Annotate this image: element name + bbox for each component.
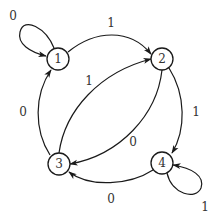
node-1-label: 1 [54,52,62,66]
edge-4-to-3 [69,170,153,183]
edge-3-to-2 [59,59,151,153]
node-2: 2 [151,48,173,70]
edge-label-1-1: 0 [9,9,17,23]
node-3-label: 3 [55,157,63,171]
edge-1-to-1-self-loop [20,25,54,56]
edge-label-3-1: 0 [19,105,27,119]
node-4: 4 [151,152,173,174]
edge-3-to-1 [38,70,51,155]
edge-label-4-4: 1 [201,200,209,214]
edge-label-4-3: 0 [107,192,115,206]
node-4-label: 4 [158,156,166,170]
edge-2-to-4 [169,68,182,153]
edges: 0 1 1 0 0 1 0 1 [9,9,209,214]
node-2-label: 2 [158,52,166,66]
edge-label-1-2: 1 [107,16,115,30]
state-diagram: 0 1 1 0 0 1 0 1 1 2 3 4 [0,0,216,223]
edge-label-3-2: 1 [85,74,93,88]
edge-1-to-2 [68,35,151,54]
node-1: 1 [47,48,69,70]
node-3: 3 [48,153,70,175]
edge-2-to-3 [70,70,162,164]
edge-label-2-3: 0 [129,135,137,149]
edge-label-2-4: 1 [192,105,200,119]
edge-4-to-4-self-loop [167,165,202,194]
